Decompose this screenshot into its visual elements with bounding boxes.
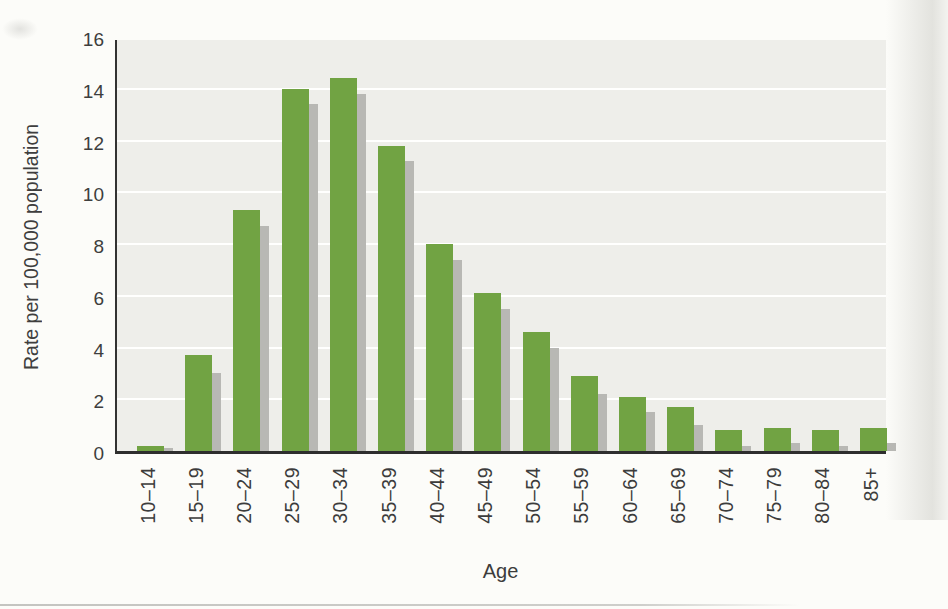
- bar: [282, 89, 309, 451]
- bar: [185, 355, 212, 451]
- x-tick-label: 80–84: [811, 467, 834, 524]
- gridline: [117, 88, 886, 90]
- y-tick-label: 0: [38, 443, 104, 465]
- page-bottom-rule: [0, 604, 800, 606]
- y-tick-label: 12: [38, 133, 104, 155]
- bar: [330, 78, 357, 451]
- bar: [233, 210, 260, 451]
- bar: [619, 397, 646, 451]
- y-tick-label: 8: [38, 236, 104, 258]
- bar: [426, 244, 453, 451]
- plot-area: [115, 40, 886, 454]
- bar: [571, 376, 598, 451]
- y-tick-label: 2: [38, 391, 104, 413]
- bar: [812, 430, 839, 451]
- y-tick-label: 14: [38, 81, 104, 103]
- bar: [860, 428, 887, 451]
- x-tick-label: 30–34: [329, 467, 352, 524]
- x-tick-label: 85+: [860, 467, 883, 502]
- x-axis-title: Age: [115, 560, 886, 583]
- gridline: [117, 295, 886, 297]
- bar-chart-figure: Rate per 100,000 population 024681012141…: [0, 0, 948, 609]
- x-tick-label: 40–44: [426, 467, 449, 524]
- bar: [137, 446, 164, 451]
- page-edge-shadow: [886, 0, 948, 520]
- y-tick-label: 10: [38, 184, 104, 206]
- y-tick-label: 4: [38, 340, 104, 362]
- x-tick-label: 35–39: [378, 467, 401, 524]
- x-tick-label: 75–79: [763, 467, 786, 524]
- corner-smudge: [2, 18, 38, 40]
- x-tick-label: 55–59: [570, 467, 593, 524]
- gridline: [117, 140, 886, 142]
- x-tick-label: 60–64: [619, 467, 642, 524]
- bar: [474, 293, 501, 451]
- bar: [667, 407, 694, 451]
- gridline: [117, 191, 886, 193]
- x-tick-label: 20–24: [233, 467, 256, 524]
- x-tick-label: 15–19: [185, 467, 208, 524]
- bar: [715, 430, 742, 451]
- gridline: [117, 243, 886, 245]
- x-tick-label: 50–54: [522, 467, 545, 524]
- x-tick-label: 25–29: [281, 467, 304, 524]
- x-tick-label: 70–74: [715, 467, 738, 524]
- bar: [764, 428, 791, 451]
- x-tick-label: 65–69: [667, 467, 690, 524]
- bar: [378, 146, 405, 451]
- x-tick-label: 45–49: [474, 467, 497, 524]
- y-tick-label: 6: [38, 288, 104, 310]
- bar: [523, 332, 550, 451]
- x-tick-label: 10–14: [137, 467, 160, 524]
- y-tick-label: 16: [38, 29, 104, 51]
